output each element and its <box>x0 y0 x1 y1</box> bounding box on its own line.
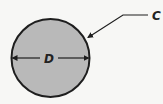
circumference-leader-line <box>88 15 148 38</box>
circumference-label: C <box>152 9 161 23</box>
circle-diagram: D C <box>0 0 163 104</box>
diameter-label: D <box>44 52 54 66</box>
